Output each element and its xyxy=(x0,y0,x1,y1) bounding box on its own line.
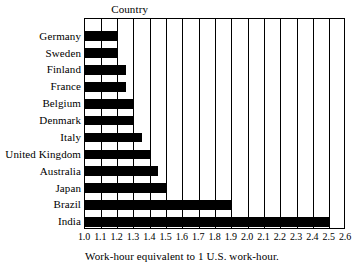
category-label: Brazil xyxy=(0,198,81,210)
bar xyxy=(85,116,134,126)
bar xyxy=(85,82,126,92)
x-axis-tick-labels: 1.01.11.21.31.41.51.61.71.81.92.02.12.22… xyxy=(84,231,345,245)
bar-row xyxy=(85,95,345,113)
category-label: India xyxy=(0,215,81,227)
bar xyxy=(85,150,150,160)
bar xyxy=(85,65,126,75)
bar xyxy=(85,31,118,41)
x-tick-label: 1.2 xyxy=(111,231,123,243)
x-tick-label: 1.0 xyxy=(78,231,90,243)
bar-row xyxy=(85,27,345,45)
bar-row xyxy=(85,179,345,197)
bar-row xyxy=(85,196,345,214)
bar xyxy=(85,166,158,176)
x-tick-label: 2.4 xyxy=(306,231,318,243)
bar xyxy=(85,133,142,143)
bar xyxy=(85,200,232,210)
bar xyxy=(85,183,167,193)
bar xyxy=(85,99,134,109)
bar-row xyxy=(85,112,345,130)
category-label: Japan xyxy=(0,182,81,194)
category-label: Denmark xyxy=(0,114,81,126)
x-tick-label: 2.6 xyxy=(339,231,351,243)
category-label: Finland xyxy=(0,63,81,75)
x-tick-label: 2.2 xyxy=(274,231,286,243)
bar xyxy=(85,48,118,58)
bar-row xyxy=(85,44,345,62)
bar-row xyxy=(85,129,345,147)
category-axis-header: Country xyxy=(0,3,148,16)
bar-row xyxy=(85,213,345,229)
x-tick-label: 1.8 xyxy=(208,231,220,243)
x-tick-label: 1.5 xyxy=(159,231,171,243)
x-tick-label: 1.4 xyxy=(143,231,155,243)
category-label: Germany xyxy=(0,30,81,42)
category-label: Italy xyxy=(0,131,81,143)
category-label: France xyxy=(0,80,81,92)
x-tick-label: 1.7 xyxy=(192,231,204,243)
category-label-list: GermanySwedenFinlandFranceBelgiumDenmark… xyxy=(0,18,81,229)
x-tick-label: 2.0 xyxy=(241,231,253,243)
x-tick-label: 1.3 xyxy=(127,231,139,243)
bar xyxy=(85,217,330,227)
category-label: Australia xyxy=(0,165,81,177)
bar-row xyxy=(85,61,345,79)
x-tick-label: 2.3 xyxy=(290,231,302,243)
bar-row xyxy=(85,146,345,164)
bar-chart: Country GermanySwedenFinlandFranceBelgiu… xyxy=(0,0,364,273)
bar-row xyxy=(85,162,345,180)
x-tick-label: 1.9 xyxy=(225,231,237,243)
x-tick-label: 2.1 xyxy=(257,231,269,243)
x-tick-label: 1.1 xyxy=(94,231,106,243)
category-label: United Kingdom xyxy=(0,148,81,160)
plot-area xyxy=(84,18,345,229)
category-label: Sweden xyxy=(0,47,81,59)
x-tick-label: 1.6 xyxy=(176,231,188,243)
category-label: Belgium xyxy=(0,97,81,109)
x-axis-title: Work-hour equivalent to 1 U.S. work-hour… xyxy=(0,250,364,263)
bar-row xyxy=(85,78,345,96)
x-tick-label: 2.5 xyxy=(323,231,335,243)
bar-group xyxy=(85,19,344,228)
